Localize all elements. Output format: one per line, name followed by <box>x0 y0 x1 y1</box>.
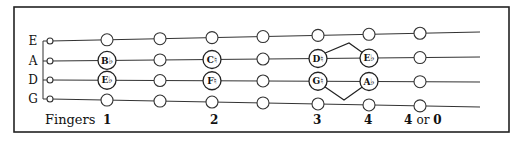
string-label-a: A <box>28 54 38 68</box>
finger-position <box>101 94 113 106</box>
finger-position <box>363 99 375 111</box>
open-string-marker <box>47 58 53 64</box>
string-bracket <box>43 41 47 99</box>
string-label-d: D <box>28 73 38 87</box>
finger-position <box>312 98 324 110</box>
note-label: A♭ <box>362 77 374 87</box>
open-string-marker <box>47 96 53 102</box>
finger-position <box>414 27 426 39</box>
note-label: C♮ <box>207 55 217 65</box>
finger-position <box>154 33 166 45</box>
finger-number-4-or-0: 4 or 0 <box>404 113 442 127</box>
fingers-label: Fingers <box>45 112 95 127</box>
finger-position <box>257 75 269 87</box>
finger-position <box>414 52 426 64</box>
finger-position <box>257 31 269 43</box>
note-label: F♮ <box>207 76 217 86</box>
half-step-connectors <box>324 43 363 100</box>
note-label: E♭ <box>363 53 374 63</box>
finger-number: 1 <box>103 113 111 127</box>
string-labels: EADG <box>28 34 38 106</box>
open-string-marker <box>47 77 53 83</box>
half-step-connector <box>324 43 363 54</box>
finger-number: 4 <box>364 113 372 127</box>
note-label: B♭ <box>101 56 113 66</box>
fingerboard-diagram: EADG B♭C♮D♮E♭E♭F♮G♮A♭ Fingers 12344 or 0 <box>0 0 522 142</box>
note-label: G♮ <box>313 76 324 86</box>
finger-position <box>154 75 166 87</box>
finger-number: 3 <box>313 113 321 127</box>
finger-positions: B♭C♮D♮E♭E♭F♮G♮A♭ <box>47 27 426 112</box>
fingering-chart: EADG B♭C♮D♮E♭E♭F♮G♮A♭ Fingers 12344 or 0 <box>0 0 522 142</box>
strings <box>50 32 480 107</box>
finger-position <box>101 34 113 46</box>
finger-position <box>414 76 426 88</box>
string-label-e: E <box>29 34 38 48</box>
finger-position <box>154 54 166 66</box>
note-label: E♭ <box>101 75 112 85</box>
finger-position <box>363 28 375 40</box>
note-label: D♮ <box>312 54 323 64</box>
finger-number: 2 <box>210 113 218 127</box>
finger-position <box>257 53 269 65</box>
finger-position <box>257 97 269 109</box>
finger-position <box>312 29 324 41</box>
open-string-marker <box>47 38 53 44</box>
finger-position <box>206 96 218 108</box>
finger-position <box>206 32 218 44</box>
half-step-connector <box>324 86 363 100</box>
fingers-row: Fingers 12344 or 0 <box>45 112 442 127</box>
finger-position <box>154 95 166 107</box>
finger-position <box>414 100 426 112</box>
string-label-g: G <box>28 92 38 106</box>
